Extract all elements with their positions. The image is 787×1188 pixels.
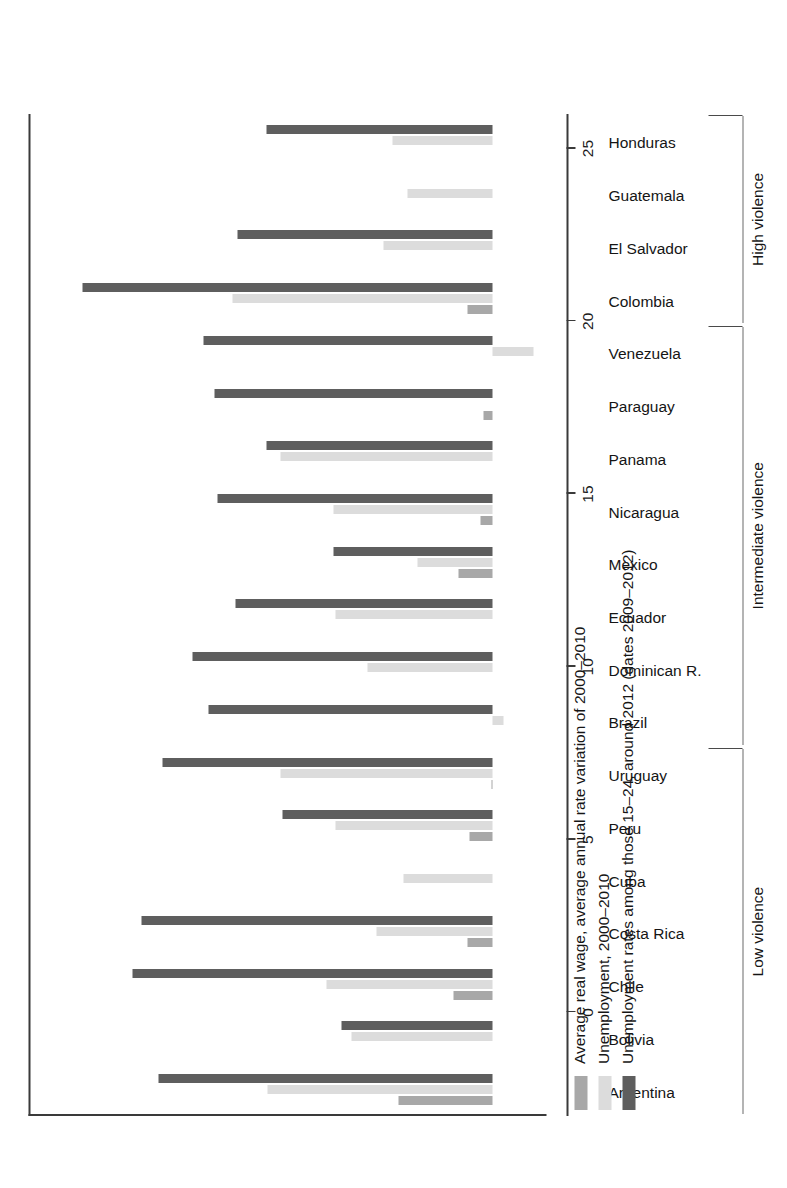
group-separator (708, 326, 742, 327)
group-bracket-line (742, 116, 743, 323)
chart-page: 0510152025 ArgentinaBoliviaChileCosta Ri… (0, 0, 787, 1188)
group-separator (708, 115, 742, 116)
group-label: High violence (748, 173, 766, 266)
legend-swatch (574, 1076, 587, 1110)
legend-swatch (598, 1076, 611, 1110)
group-separator (708, 748, 742, 749)
group-bracket-line (742, 327, 743, 745)
legend-label: Unemployment rates among those 15–24, ar… (618, 550, 636, 1064)
group-bracket-line (742, 749, 743, 1114)
legend-label: Average real wage, average annual rate v… (570, 627, 588, 1064)
legend-label: Unemployment, 2000–2010 (594, 874, 612, 1064)
legend-swatch (622, 1076, 635, 1110)
group-label: Low violence (748, 887, 766, 977)
chart-legend: Average real wage, average annual rate v… (570, 108, 690, 1110)
group-label: Intermediate violence (748, 462, 766, 609)
rotated-figure: 0510152025 ArgentinaBoliviaChileCosta Ri… (0, 0, 787, 1188)
